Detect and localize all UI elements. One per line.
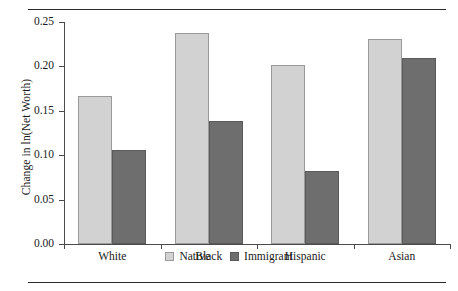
y-axis-tick-label: 0.10: [34, 148, 54, 160]
y-axis-tick-label: 0.00: [34, 237, 54, 249]
legend-item-immigrant: Immigrant: [230, 250, 293, 262]
bar-black-native: [175, 33, 209, 244]
legend-label-native: Native: [179, 250, 210, 262]
x-axis-tick: [161, 244, 162, 249]
x-axis-tick: [450, 244, 451, 249]
x-axis-tick: [64, 244, 65, 249]
bar-hispanic-immigrant: [305, 171, 339, 244]
bar-white-immigrant: [112, 150, 146, 244]
bars-layer: [64, 22, 450, 244]
y-axis-tick-label: 0.05: [34, 193, 54, 205]
x-axis-tick: [257, 244, 258, 249]
bar-chart-figure: Change in ln(Net Worth) 0.000.050.100.15…: [0, 0, 458, 291]
bottom-horizontal-rule: [28, 282, 446, 283]
y-axis-title: Change in ln(Net Worth): [20, 37, 32, 237]
legend-item-native: Native: [165, 250, 210, 262]
bar-asian-native: [368, 39, 402, 244]
bar-hispanic-native: [271, 65, 305, 244]
bar-black-immigrant: [209, 121, 243, 244]
bar-white-native: [78, 96, 112, 244]
legend-label-immigrant: Immigrant: [244, 250, 293, 262]
chart-legend: NativeImmigrant: [0, 250, 458, 262]
y-axis-tick-label: 0.15: [34, 104, 54, 116]
legend-swatch-native: [165, 252, 174, 261]
y-axis-tick-label: 0.20: [34, 59, 54, 71]
y-axis-tick-label: 0.25: [34, 15, 54, 27]
legend-swatch-immigrant: [230, 252, 239, 261]
x-axis-tick: [354, 244, 355, 249]
plot-area: 0.000.050.100.150.200.25 WhiteBlackHispa…: [64, 22, 450, 244]
bar-asian-immigrant: [402, 58, 436, 244]
top-horizontal-rule: [28, 9, 446, 10]
